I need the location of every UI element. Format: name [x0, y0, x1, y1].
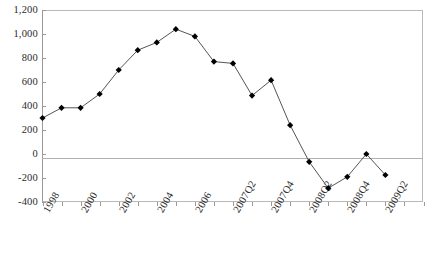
- y-axis-tick-label: 600: [0, 77, 38, 87]
- y-axis-tick-mark: [42, 106, 46, 107]
- data-point-marker: [58, 105, 64, 111]
- series-line: [43, 29, 386, 188]
- x-axis-tick-mark: [214, 202, 215, 206]
- y-axis-tick-mark: [42, 10, 46, 11]
- y-axis-tick-mark: [42, 178, 46, 179]
- x-axis-tick-mark: [100, 202, 101, 206]
- y-axis-tick-mark: [42, 202, 46, 203]
- data-point-marker: [230, 60, 236, 66]
- x-axis-tick-mark: [366, 202, 367, 206]
- y-axis-tick-mark: [42, 58, 46, 59]
- y-axis-tick-label: -200: [0, 173, 38, 183]
- y-axis-tick-label: 0: [0, 149, 38, 159]
- y-axis-tick-label: -400: [0, 197, 38, 207]
- line-chart: 1,2001,0008006004002000-200-400 19982000…: [0, 0, 434, 263]
- x-axis-tick-mark: [176, 202, 177, 206]
- x-axis-tick-mark: [138, 202, 139, 206]
- x-axis-tick-mark: [252, 202, 253, 206]
- x-axis-tick-mark: [424, 202, 425, 206]
- x-axis-tick-mark: [404, 202, 405, 206]
- plot-area: [42, 10, 423, 202]
- data-series: [42, 10, 423, 202]
- y-axis-tick-mark: [42, 154, 46, 155]
- data-point-marker: [287, 122, 293, 128]
- y-axis-tick-label: 1,200: [0, 5, 38, 15]
- y-axis: 1,2001,0008006004002000-200-400: [0, 0, 38, 263]
- x-axis-tick-mark: [328, 202, 329, 206]
- y-axis-tick-label: 800: [0, 53, 38, 63]
- data-point-marker: [173, 26, 179, 32]
- y-axis-tick-label: 200: [0, 125, 38, 135]
- data-point-marker: [154, 39, 160, 45]
- y-axis-tick-mark: [42, 82, 46, 83]
- x-axis-tick-mark: [62, 202, 63, 206]
- y-axis-tick-mark: [42, 34, 46, 35]
- data-point-marker: [39, 115, 45, 121]
- y-axis-tick-mark: [42, 130, 46, 131]
- x-axis-tick-mark: [290, 202, 291, 206]
- y-axis-tick-label: 1,000: [0, 29, 38, 39]
- y-axis-tick-label: 400: [0, 101, 38, 111]
